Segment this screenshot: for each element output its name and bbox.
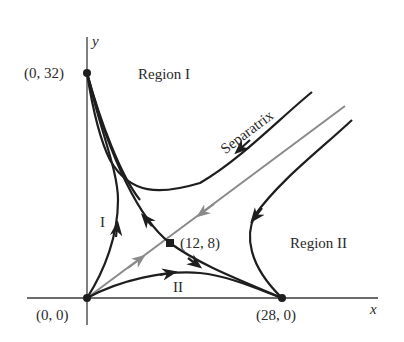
- point-origin: [83, 294, 91, 302]
- equilibria: [83, 69, 286, 302]
- point-label-12-8: (12, 8): [180, 236, 220, 251]
- point-label-origin: (0, 0): [36, 308, 69, 323]
- phase-plane-figure: y x (0, 32) (0, 0) (12, 8) (28, 0) Regio…: [0, 0, 404, 342]
- point-saddle-12-8: [166, 239, 174, 247]
- trajectory-region2: [250, 120, 352, 298]
- point-0-32: [83, 69, 91, 77]
- region-1-label: Region I: [138, 67, 190, 82]
- point-28-0: [278, 294, 286, 302]
- arrow-inner-I: [116, 228, 117, 237]
- phase-plane-svg: [0, 0, 404, 342]
- sublabel-I: I: [100, 215, 105, 230]
- point-label-28-0: (28, 0): [256, 308, 296, 323]
- x-axis-label: x: [370, 302, 377, 317]
- trajectories: [87, 73, 352, 298]
- trajectory-fan: [87, 73, 140, 200]
- point-label-0-32: (0, 32): [24, 66, 64, 81]
- trajectory-inner-I: [87, 73, 118, 298]
- region-2-label: Region II: [290, 236, 347, 251]
- sublabel-II: II: [173, 280, 183, 295]
- y-axis-label: y: [92, 34, 99, 49]
